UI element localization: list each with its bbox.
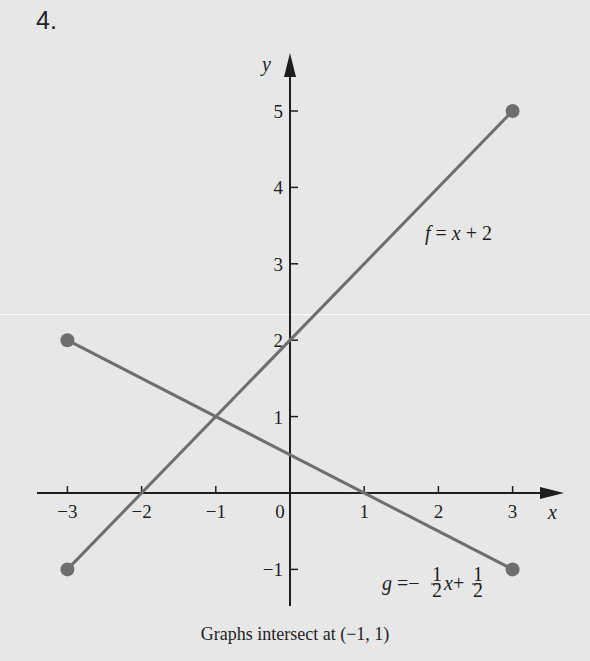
svg-text:g =−: g =− xyxy=(382,572,420,595)
y-axis-label: y xyxy=(260,53,271,76)
endpoint-g xyxy=(60,333,74,347)
y-axis-arrow-icon xyxy=(284,53,296,77)
x-axis-label: x xyxy=(547,501,557,523)
x-tick-label: −3 xyxy=(57,501,77,522)
y-tick-label: 4 xyxy=(274,177,284,198)
svg-text:+: + xyxy=(453,572,464,594)
x-tick-label: 1 xyxy=(359,501,369,522)
y-tick-label: 1 xyxy=(274,407,284,428)
svg-text:2: 2 xyxy=(473,579,483,601)
x-axis-arrow-icon xyxy=(540,487,564,499)
y-tick-label: 3 xyxy=(274,254,284,275)
graph: xy −3−2−10123−112345 f = x + 2 g =− 1 2 … xyxy=(0,0,590,661)
equation-labels: f = x + 2 g =− 1 2 x + 1 2 xyxy=(382,222,492,601)
g-equation-label: g =− 1 2 x + 1 2 xyxy=(382,563,483,601)
x-tick-label: −2 xyxy=(131,501,151,522)
x-tick-label: 3 xyxy=(508,501,518,522)
endpoint-f xyxy=(60,562,74,576)
caption: Graphs intersect at (−1, 1) xyxy=(0,624,590,645)
x-tick-label: 2 xyxy=(434,501,444,522)
y-tick-label: 5 xyxy=(274,101,284,122)
svg-text:2: 2 xyxy=(432,579,442,601)
x-tick-label: −1 xyxy=(206,501,226,522)
x-tick-label: 0 xyxy=(275,501,285,522)
endpoint-g xyxy=(506,562,520,576)
svg-text:x: x xyxy=(443,572,453,594)
y-tick-label: −1 xyxy=(263,559,283,580)
f-equation-label: f = x + 2 xyxy=(425,222,492,245)
endpoint-f xyxy=(506,104,520,118)
